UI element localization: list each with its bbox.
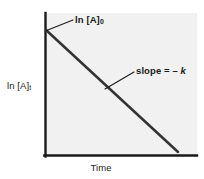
annotation-slope: slope = – k	[136, 66, 186, 76]
annotation-intercept: ln [A]0	[75, 15, 104, 25]
first-order-kinetics-plot: ln [A]t Time ln [A]0 slope = – k	[0, 0, 204, 179]
annotation-slope-symbol: k	[181, 65, 186, 76]
x-axis-label: Time	[90, 163, 111, 173]
y-axis-label-subscript: t	[29, 84, 31, 91]
y-axis-label: ln [A]t	[7, 81, 31, 91]
annotation-intercept-text: ln [A]	[75, 14, 100, 25]
plot-area-background	[45, 13, 197, 156]
annotation-intercept-subscript: 0	[100, 18, 104, 25]
y-axis-label-text: ln [A]	[7, 80, 29, 91]
annotation-slope-text: slope = –	[136, 65, 181, 76]
